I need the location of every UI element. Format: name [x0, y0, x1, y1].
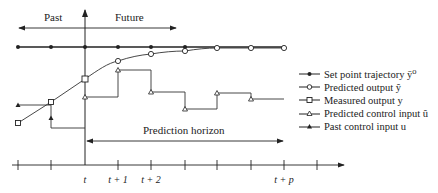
legend-item-setpoint: Set point trajectory ȳ⁰ [299, 69, 417, 80]
filled-triangle-icon [307, 124, 312, 129]
mpc-diagram: Past Future [0, 0, 438, 193]
svg-text:Predicted output ŷ: Predicted output ŷ [324, 82, 402, 93]
filled-circle-icon [308, 72, 312, 76]
svg-text:Measured output y: Measured output y [324, 95, 403, 106]
time-axis: t t + 1 t + 2 t + p [12, 160, 344, 185]
svg-text:Set point trajectory ȳ⁰: Set point trajectory ȳ⁰ [324, 69, 417, 80]
past-control-input [16, 103, 86, 129]
tick-label-tp: t + p [274, 174, 294, 185]
legend-item-predicted-control: Predicted control input û [299, 108, 429, 119]
prediction-horizon-label: Prediction horizon [143, 124, 225, 136]
future-label: Future [115, 11, 144, 23]
prediction-horizon: Prediction horizon [87, 124, 283, 141]
tick-label-t: t [84, 174, 87, 185]
legend-item-measured-output: Measured output y [299, 95, 403, 106]
legend: Set point trajectory ȳ⁰ Predicted output… [299, 69, 429, 132]
open-square-icon [307, 98, 312, 103]
predicted-output [85, 45, 287, 79]
legend-item-predicted-output: Predicted output ŷ [299, 82, 402, 93]
open-circle-icon [307, 85, 312, 90]
tick-label-t1: t + 1 [108, 174, 128, 185]
tick-label-t2: t + 2 [141, 174, 161, 185]
legend-item-past-control: Past control input u [299, 121, 407, 132]
predicted-control-input [83, 68, 285, 112]
svg-text:Predicted control input û: Predicted control input û [324, 108, 429, 119]
past-label: Past [44, 11, 62, 23]
open-triangle-icon [307, 111, 312, 116]
past-future-arrow: Past Future [19, 11, 176, 28]
svg-text:Past control input u: Past control input u [324, 121, 407, 132]
